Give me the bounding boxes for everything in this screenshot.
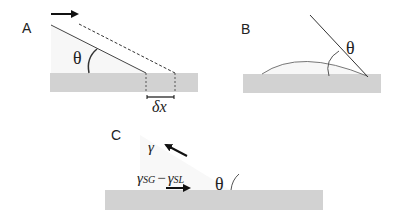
angle-arc-c: [231, 174, 239, 190]
panel-a: A θ δx: [22, 14, 198, 115]
theta-label-a: θ: [73, 48, 82, 68]
panel-b-label: B: [241, 21, 250, 37]
droplet-fill: [262, 61, 367, 76]
panel-b: B θ: [241, 15, 381, 93]
wetting-diagram: A θ δx B θ C γ γSG−γSL θ: [0, 0, 398, 222]
panel-a-label: A: [22, 20, 32, 36]
panel-c: C γ γSG−γSL θ: [105, 127, 323, 210]
substrate-b: [243, 74, 381, 93]
panel-c-label: C: [111, 127, 121, 143]
substrate-a: [50, 73, 198, 92]
delta-x-label: δx: [152, 98, 167, 115]
substrate-c: [105, 190, 323, 210]
theta-label-b: θ: [346, 38, 355, 58]
theta-label-c: θ: [215, 174, 224, 194]
